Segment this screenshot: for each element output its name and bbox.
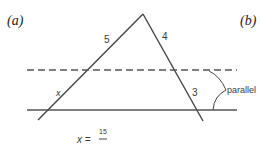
- side-label-4: 4: [162, 32, 168, 42]
- panel-label-a: (a): [7, 14, 23, 28]
- parallel-bracket: [209, 71, 226, 110]
- equation-lhs: x =: [77, 135, 91, 145]
- parallel-label: parallel: [227, 85, 256, 95]
- panel-label-b: (b): [240, 14, 256, 28]
- side-label-3: 3: [192, 88, 198, 98]
- equation-numerator: 15: [99, 128, 107, 135]
- triangle-diagram: [0, 0, 260, 148]
- side-label-5: 5: [104, 35, 110, 45]
- triangle-left-side: [38, 14, 143, 120]
- triangle-right-side: [143, 14, 203, 121]
- side-label-x: x: [56, 88, 61, 98]
